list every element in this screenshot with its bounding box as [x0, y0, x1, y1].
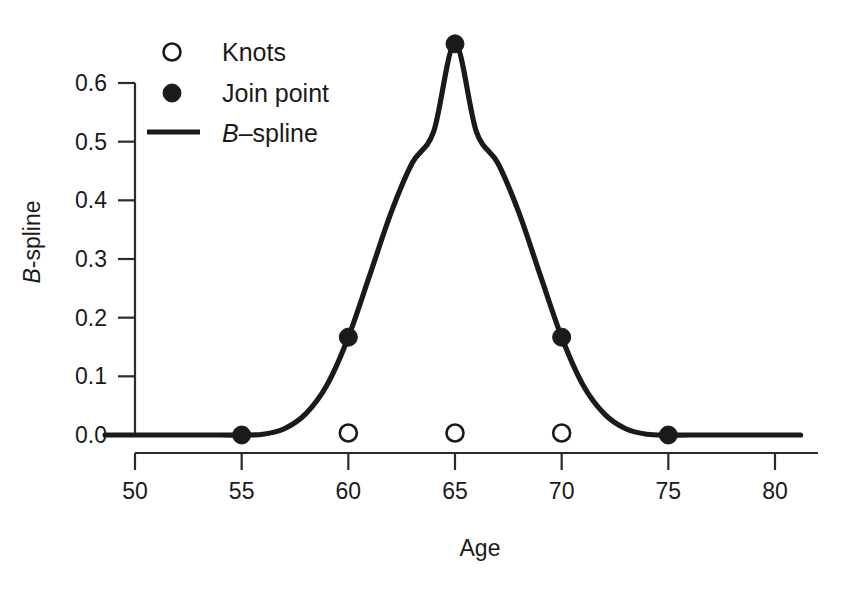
y-tick-label: 0.6	[75, 70, 107, 96]
y-tick-label: 0.0	[75, 422, 107, 448]
y-tick-label: 0.1	[75, 363, 107, 389]
knot-marker	[340, 425, 357, 442]
chart-legend: Knots Join point B–spline	[147, 38, 329, 147]
open-circle-icon	[164, 44, 181, 61]
legend-entry-join-point: Join point	[163, 79, 329, 107]
x-axis: 50556065707580	[122, 453, 818, 504]
x-tick-label: 65	[442, 478, 468, 504]
x-tick-label: 55	[229, 478, 255, 504]
chart-figure: 50556065707580 0.00.10.20.30.40.50.6 Age…	[0, 0, 855, 595]
x-axis-title: Age	[460, 535, 501, 561]
knot-marker	[447, 425, 464, 442]
x-tick-label: 75	[656, 478, 682, 504]
x-tick-label: 50	[122, 478, 148, 504]
x-axis-ticks	[135, 453, 775, 470]
y-tick-label: 0.4	[75, 187, 107, 213]
join-point-marker	[659, 426, 677, 444]
legend-entry-knots: Knots	[164, 38, 286, 66]
y-tick-label: 0.5	[75, 129, 107, 155]
y-axis-ticks	[118, 83, 135, 435]
y-axis: 0.00.10.20.30.40.50.6	[75, 70, 135, 448]
join-point-marker	[233, 426, 251, 444]
legend-label-bspline: B–spline	[222, 119, 318, 147]
x-tick-label: 80	[762, 478, 788, 504]
y-axis-tick-labels: 0.00.10.20.30.40.50.6	[75, 70, 107, 448]
y-tick-label: 0.2	[75, 305, 107, 331]
x-tick-label: 60	[336, 478, 362, 504]
legend-label-knots: Knots	[222, 38, 286, 66]
knot-marker	[553, 425, 570, 442]
join-point-marker	[553, 328, 571, 346]
bspline-plot: 50556065707580 0.00.10.20.30.40.50.6 Age…	[0, 0, 855, 595]
y-tick-label: 0.3	[75, 246, 107, 272]
bspline-curve	[105, 44, 800, 435]
x-axis-tick-labels: 50556065707580	[122, 478, 788, 504]
join-point-marker	[446, 35, 464, 53]
legend-label-join-point: Join point	[222, 79, 329, 107]
filled-circle-icon	[163, 84, 181, 102]
x-tick-label: 70	[549, 478, 575, 504]
knot-markers	[340, 425, 570, 442]
legend-entry-bspline: B–spline	[147, 119, 318, 147]
join-point-marker	[339, 328, 357, 346]
y-axis-title: B-spline	[19, 200, 45, 283]
